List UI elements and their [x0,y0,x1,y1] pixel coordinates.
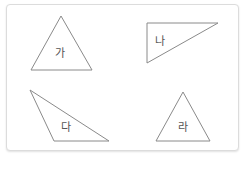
triangle-label-da: 다 [61,121,71,134]
triangles-figure: 가 나 다 라 [0,0,242,169]
triangle-label-ga: 가 [55,47,65,60]
triangle-na: 나 [147,23,218,63]
triangle-ra: 라 [156,92,210,141]
triangle-da: 다 [30,90,109,141]
triangle-label-na: 나 [155,35,165,48]
triangle-label-ra: 라 [178,121,188,134]
triangle-ga: 가 [31,16,92,70]
